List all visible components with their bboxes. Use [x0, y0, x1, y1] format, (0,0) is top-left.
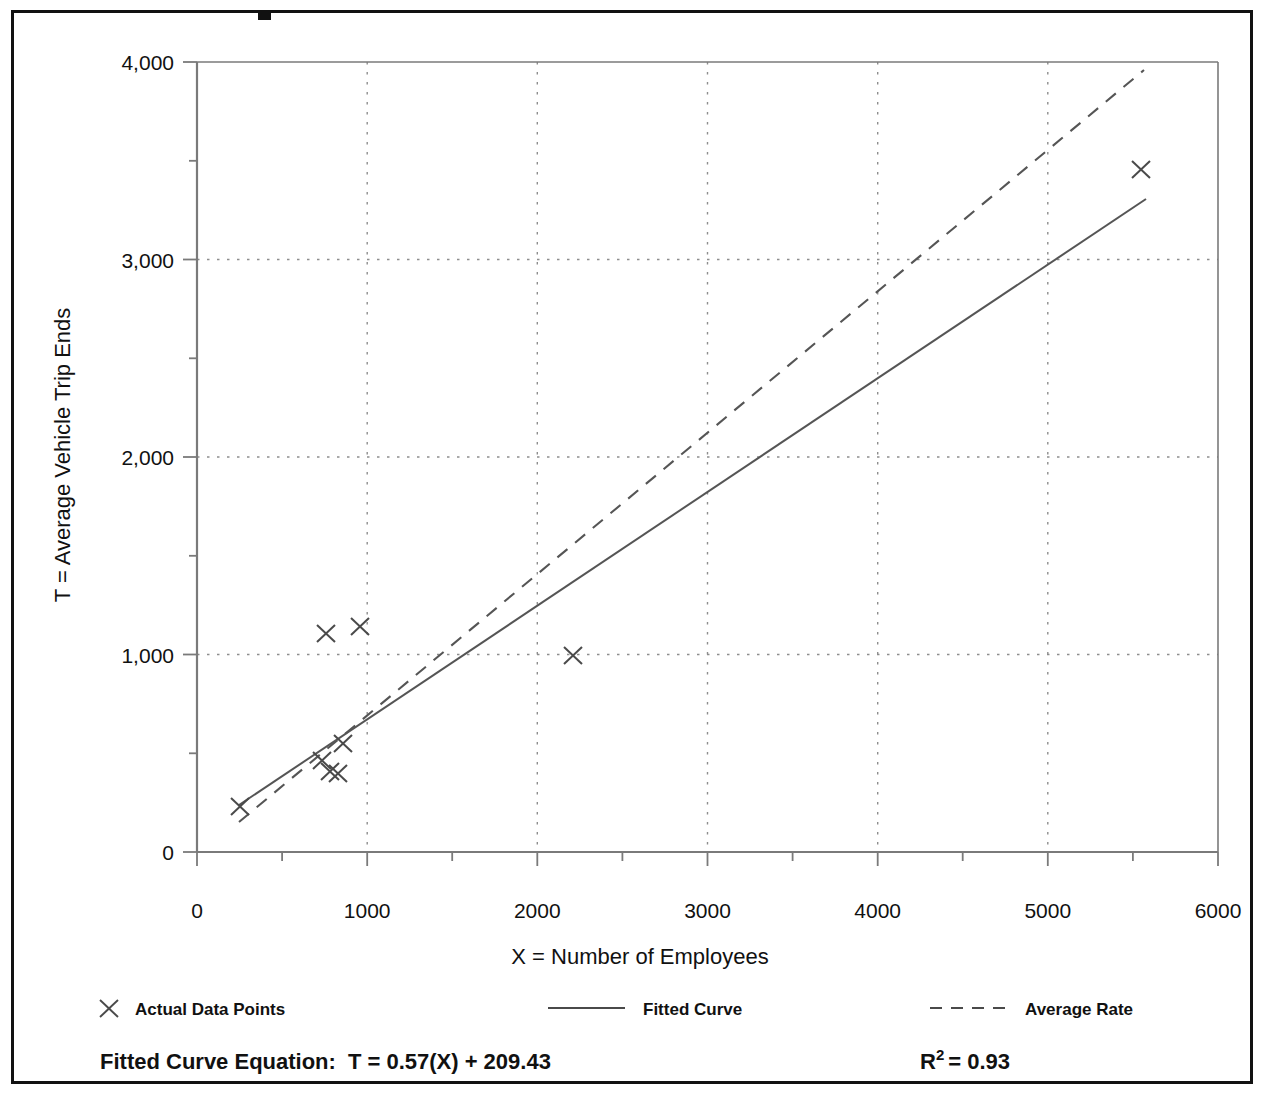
ytick-label-3000: 3,000 [121, 249, 174, 272]
data-point-marker [334, 735, 352, 752]
data-point-marker [317, 625, 335, 642]
legend-label-actual-data-points: Actual Data Points [135, 1000, 285, 1019]
fitted-curve-line [239, 199, 1146, 805]
xtick-label-6000: 6000 [1195, 899, 1242, 922]
y-tick-labels: 4,000 3,000 2,000 1,000 0 [121, 51, 174, 864]
footer-equation-row: Fitted Curve Equation:T = 0.57(X) + 209.… [100, 1046, 1010, 1074]
legend-label-fitted-curve: Fitted Curve [643, 1000, 742, 1019]
xtick-label-1000: 1000 [344, 899, 391, 922]
chart-canvas: 4,000 3,000 2,000 1,000 0 0 1000 2000 30… [0, 0, 1270, 1099]
xtick-label-3000: 3000 [684, 899, 731, 922]
ytick-label-0: 0 [162, 841, 174, 864]
fitted-equation-label: Fitted Curve Equation:T = 0.57(X) + 209.… [100, 1049, 551, 1074]
ytick-label-1000: 1,000 [121, 644, 174, 667]
r-squared: R2= 0.93 [920, 1046, 1010, 1074]
legend: Actual Data Points Fitted Curve Average … [100, 1000, 1133, 1019]
data-point-marker [313, 752, 331, 769]
legend-item-fitted-curve[interactable]: Fitted Curve [548, 1000, 742, 1019]
data-point-marker [564, 647, 582, 664]
y-axis-title: T = Average Vehicle Trip Ends [50, 308, 75, 603]
xtick-label-2000: 2000 [514, 899, 561, 922]
data-point-marker [231, 798, 249, 815]
average-rate-line [239, 70, 1144, 822]
ytick-label-2000: 2,000 [121, 446, 174, 469]
legend-label-average-rate: Average Rate [1025, 1000, 1133, 1019]
gridlines-horizontal [197, 260, 1218, 655]
xtick-label-5000: 5000 [1024, 899, 1071, 922]
data-point-marker [351, 618, 369, 635]
xtick-label-4000: 4000 [854, 899, 901, 922]
legend-item-actual-data-points[interactable]: Actual Data Points [100, 1000, 285, 1019]
xtick-label-0: 0 [191, 899, 203, 922]
x-marker-icon [100, 1000, 118, 1017]
ytick-label-4000: 4,000 [121, 51, 174, 74]
x-tick-labels: 0 1000 2000 3000 4000 5000 6000 [191, 899, 1241, 922]
legend-item-average-rate[interactable]: Average Rate [930, 1000, 1133, 1019]
x-axis-title: X = Number of Employees [511, 944, 768, 969]
scatter-plot-svg: 4,000 3,000 2,000 1,000 0 0 1000 2000 30… [0, 0, 1270, 1099]
x-axis-ticks [197, 852, 1218, 866]
y-axis-ticks [183, 62, 197, 852]
data-point-marker [1132, 161, 1150, 178]
